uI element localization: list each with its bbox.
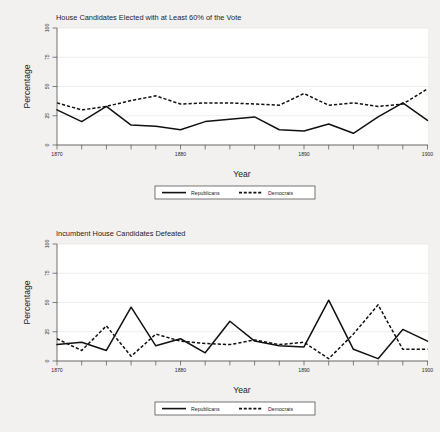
chart-title: Incumbent House Candidates Defeated (56, 229, 185, 238)
figure-canvas: House Candidates Elected with at Least 6… (0, 0, 440, 432)
x-tick-label: 1890 (298, 151, 309, 157)
legend-label-republicans: Republicans (191, 406, 220, 412)
x-tick-label: 1870 (51, 367, 62, 373)
legend-label-democrats: Democrats (268, 190, 293, 196)
y-tick-label: 25 (44, 113, 50, 119)
legend: Republicans Democrats (155, 402, 315, 415)
x-tick-label: 1880 (175, 151, 186, 157)
y-tick-label: 0 (44, 143, 50, 146)
y-tick-label: 75 (44, 54, 50, 60)
x-axis-title: Year (233, 169, 251, 179)
y-tick-label: 50 (44, 300, 50, 306)
x-axis-title: Year (233, 385, 251, 395)
y-axis-title: Percentage (22, 64, 32, 108)
chart-svg-top: House Candidates Elected with at Least 6… (0, 0, 440, 216)
x-tick-label: 1900 (422, 367, 433, 373)
legend-label-democrats: Democrats (268, 406, 293, 412)
chart-svg-bottom: Incumbent House Candidates Defeated 0 25 (0, 216, 440, 432)
chart-title: House Candidates Elected with at Least 6… (56, 13, 241, 22)
y-tick-label: 100 (44, 240, 50, 249)
x-tick-label: 1890 (298, 367, 309, 373)
legend-label-republicans: Republicans (191, 190, 220, 196)
chart-panel-top: House Candidates Elected with at Least 6… (0, 0, 440, 216)
x-tick-label: 1870 (51, 151, 62, 157)
y-tick-label: 50 (44, 84, 50, 90)
y-tick-label: 0 (44, 359, 50, 362)
y-axis-title: Percentage (22, 280, 32, 324)
x-tick-label: 1880 (175, 367, 186, 373)
legend: Republicans Democrats (155, 186, 315, 199)
y-tick-label: 75 (44, 270, 50, 276)
x-tick-label: 1900 (422, 151, 433, 157)
y-tick-label: 25 (44, 329, 50, 335)
y-tick-label: 100 (44, 24, 50, 33)
chart-panel-bottom: Incumbent House Candidates Defeated 0 25 (0, 216, 440, 432)
